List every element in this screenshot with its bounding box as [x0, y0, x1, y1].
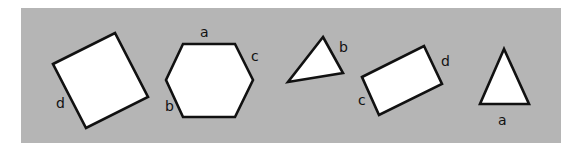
rectangle-group: d c: [358, 46, 450, 115]
rectangle-shape: [362, 46, 442, 115]
scalene-triangle-shape: [288, 37, 343, 82]
hexagon-shape: [166, 44, 253, 117]
shapes-canvas: d a c b b d c a: [0, 0, 587, 148]
hexagon-label-c: c: [251, 48, 259, 64]
square-label-d: d: [56, 95, 65, 111]
rectangle-label-c: c: [358, 92, 366, 108]
square-group: d: [53, 33, 148, 128]
scalene-triangle-label-b: b: [339, 39, 348, 55]
equilateral-triangle-shape: [480, 49, 529, 104]
square-shape: [53, 33, 148, 128]
hexagon-group: a c b: [165, 24, 259, 117]
rectangle-label-d: d: [441, 53, 450, 69]
hexagon-label-b: b: [165, 98, 174, 114]
equilateral-triangle-label-a: a: [498, 112, 507, 128]
hexagon-label-a: a: [200, 24, 209, 40]
scalene-triangle-group: b: [288, 37, 348, 82]
equilateral-triangle-group: a: [480, 49, 529, 128]
